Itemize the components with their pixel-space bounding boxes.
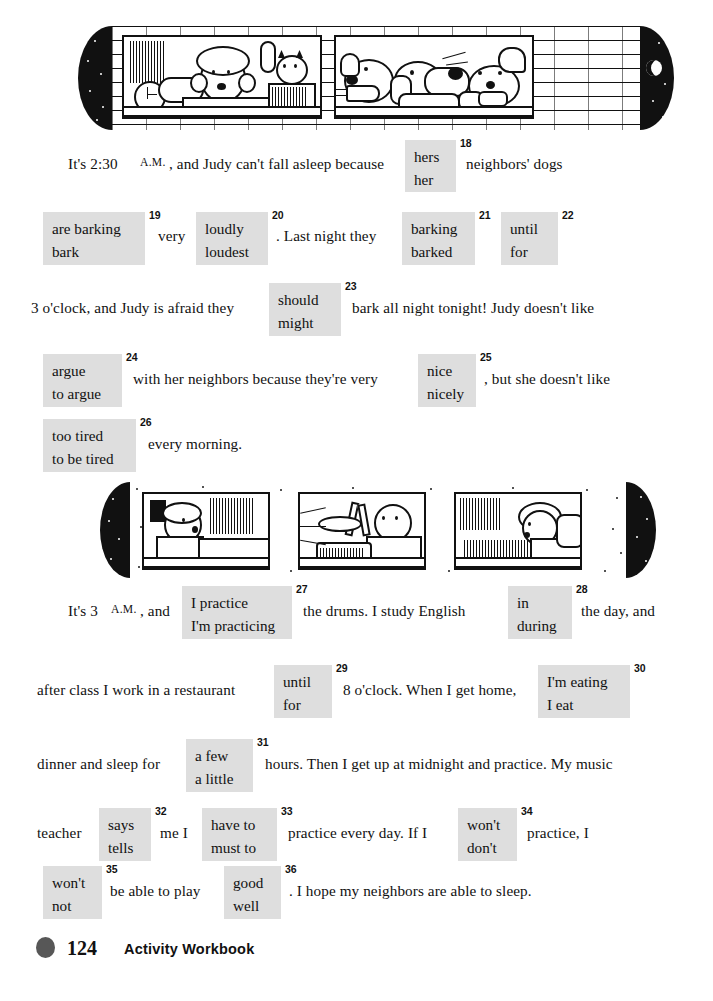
sentence-text: neighbors' dogs: [466, 155, 563, 173]
question-number-35: 35: [106, 863, 118, 875]
answer-choice-box-33[interactable]: have tomust to: [202, 808, 277, 861]
answer-option-20-1[interactable]: loudly: [205, 217, 259, 240]
star-icon: [645, 560, 647, 562]
crescent-moon-icon: [646, 60, 662, 76]
answer-choice-box-26[interactable]: too tiredto be tired: [43, 419, 136, 472]
night-sky-left-cap: [100, 482, 130, 578]
question-number-24: 24: [126, 351, 138, 363]
answer-choice-box-19[interactable]: are barkingbark: [43, 212, 145, 265]
answer-choice-box-29[interactable]: untilfor: [274, 665, 332, 718]
woman-eye: [212, 70, 215, 74]
answer-option-35-1[interactable]: won't: [52, 871, 93, 894]
question-number-28: 28: [576, 583, 588, 595]
sentence-smallcaps: A.M.: [140, 156, 166, 169]
star-icon: [636, 536, 638, 538]
curtain-hatch: [130, 41, 164, 83]
answer-option-29-2[interactable]: for: [283, 693, 323, 716]
question-number-32: 32: [155, 805, 167, 817]
answer-option-22-1[interactable]: until: [510, 217, 549, 240]
cat-head: [276, 55, 308, 85]
answer-option-36-2[interactable]: well: [233, 894, 272, 917]
answer-option-34-2[interactable]: don't: [467, 836, 508, 859]
answer-choice-box-23[interactable]: shouldmight: [269, 283, 341, 336]
answer-option-25-1[interactable]: nice: [427, 359, 467, 382]
answer-option-30-1[interactable]: I'm eating: [547, 670, 621, 693]
sentence-text: , and: [140, 602, 170, 620]
bark-speed-line: [336, 95, 348, 96]
answer-option-31-2[interactable]: a little: [195, 767, 244, 790]
answer-option-19-1[interactable]: are barking: [52, 217, 136, 240]
cat-eye: [294, 64, 297, 68]
answer-option-26-1[interactable]: too tired: [52, 424, 127, 447]
bark-speed-line: [446, 61, 468, 65]
answer-choice-box-27[interactable]: I practiceI'm practicing: [182, 586, 292, 639]
answer-choice-box-31[interactable]: a fewa little: [186, 739, 253, 792]
answer-choice-box-22[interactable]: untilfor: [501, 212, 558, 265]
answer-option-28-1[interactable]: in: [517, 591, 563, 614]
answer-option-35-2[interactable]: not: [52, 894, 93, 917]
answer-option-24-2[interactable]: to argue: [52, 382, 113, 405]
woman-eye: [227, 70, 230, 74]
star-icon: [658, 42, 660, 44]
boy-eye: [395, 516, 398, 520]
woman-eye: [528, 522, 531, 526]
answer-choice-box-25[interactable]: nicenicely: [418, 354, 476, 407]
answer-option-31-1[interactable]: a few: [195, 744, 244, 767]
woman-hand: [190, 73, 208, 93]
answer-option-22-2[interactable]: for: [510, 240, 549, 263]
answer-choice-box-21[interactable]: barkingbarked: [402, 212, 475, 265]
answer-choice-box-24[interactable]: argueto argue: [43, 354, 122, 407]
answer-option-36-1[interactable]: good: [233, 871, 272, 894]
sentence-text: dinner and sleep for: [37, 755, 160, 773]
answer-option-26-2[interactable]: to be tired: [52, 447, 127, 470]
answer-option-18-2[interactable]: her: [414, 168, 447, 191]
cat-eye: [283, 64, 286, 68]
answer-option-30-2[interactable]: I eat: [547, 693, 621, 716]
window-sill: [298, 557, 426, 568]
answer-option-21-1[interactable]: barking: [411, 217, 466, 240]
answer-option-21-2[interactable]: barked: [411, 240, 466, 263]
answer-choice-box-30[interactable]: I'm eatingI eat: [538, 665, 630, 718]
answer-option-19-2[interactable]: bark: [52, 240, 136, 263]
answer-option-27-2[interactable]: I'm practicing: [191, 614, 283, 637]
answer-option-20-2[interactable]: loudest: [205, 240, 259, 263]
answer-option-27-1[interactable]: I practice: [191, 591, 283, 614]
answer-option-18-1[interactable]: hers: [414, 145, 447, 168]
question-number-27: 27: [296, 583, 308, 595]
answer-option-33-2[interactable]: must to: [211, 836, 268, 859]
dog-nose: [346, 75, 358, 85]
answer-option-34-1[interactable]: won't: [467, 813, 508, 836]
answer-option-29-1[interactable]: until: [283, 670, 323, 693]
sentence-text: practice every day. If I: [288, 824, 427, 842]
window-sill: [122, 106, 322, 117]
star-icon: [118, 538, 120, 540]
question-number-21: 21: [479, 209, 491, 221]
answer-choice-box-18[interactable]: hersher: [405, 140, 456, 192]
dog-eye: [410, 70, 414, 75]
dog-eye: [478, 71, 482, 75]
window-sill: [454, 557, 582, 568]
answer-option-25-2[interactable]: nicely: [427, 382, 467, 405]
answer-option-32-2[interactable]: tells: [108, 836, 142, 859]
dog-ear: [498, 47, 526, 73]
answer-choice-box-36[interactable]: goodwell: [224, 866, 281, 919]
answer-option-32-1[interactable]: says: [108, 813, 142, 836]
drum-sound-line: [300, 507, 326, 513]
answer-option-23-2[interactable]: might: [278, 311, 332, 334]
star-icon: [640, 496, 642, 498]
sentence-text: me I: [160, 824, 188, 842]
answer-option-33-1[interactable]: have to: [211, 813, 268, 836]
answer-choice-box-28[interactable]: induring: [508, 586, 572, 639]
answer-choice-box-32[interactable]: saystells: [99, 808, 151, 861]
answer-choice-box-34[interactable]: won'tdon't: [458, 808, 517, 861]
question-number-26: 26: [140, 416, 152, 428]
star-icon: [102, 106, 104, 108]
answer-option-24-1[interactable]: argue: [52, 359, 113, 382]
answer-option-23-1[interactable]: should: [278, 288, 332, 311]
answer-option-28-2[interactable]: during: [517, 614, 563, 637]
star-icon: [110, 558, 112, 560]
sentence-text: , but she doesn't like: [484, 370, 610, 388]
cat-ear: [296, 50, 303, 58]
answer-choice-box-20[interactable]: loudlyloudest: [196, 212, 268, 265]
answer-choice-box-35[interactable]: won'tnot: [43, 866, 102, 919]
